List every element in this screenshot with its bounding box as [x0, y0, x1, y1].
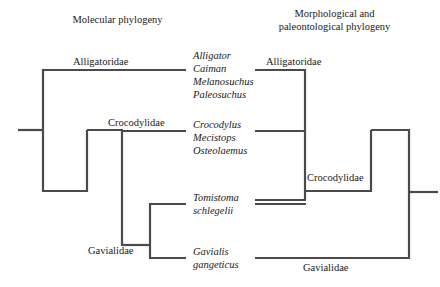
taxon-name: Gavialis [193, 245, 239, 258]
right-clade-label-crocodylidae: Crocodylidae [307, 172, 364, 183]
left-clade-label-gavialidae: Gavialidae [88, 245, 133, 256]
alligatoridae-taxa-list: Alligator Caiman Melanosuchus Paleosuchu… [193, 49, 254, 101]
taxon-name: Alligator [193, 49, 254, 62]
gavialis-taxa-list: Gavialis gangeticus [193, 245, 239, 271]
taxon-name: Paleosuchus [193, 88, 254, 101]
right-clade-label-alligatoridae: Alligatoridae [266, 56, 321, 67]
taxon-name: gangeticus [193, 258, 239, 271]
taxon-name: Tomistoma [193, 191, 239, 204]
right-panel-title-line1: Morphological and [262, 8, 407, 21]
taxon-name: Crocodylus [193, 118, 247, 131]
right-clade-label-gavialidae: Gavialidae [303, 262, 348, 273]
left-clade-label-alligatoridae: Alligatoridae [73, 56, 128, 67]
taxon-name: Mecistops [193, 131, 247, 144]
taxon-name: Melanosuchus [193, 75, 254, 88]
taxon-name: Caiman [193, 62, 254, 75]
left-panel-title: Molecular phylogeny [55, 14, 180, 27]
crocodylidae-taxa-list: Crocodylus Mecistops Osteolaemus [193, 118, 247, 157]
taxon-name: Osteolaemus [193, 144, 247, 157]
phylogeny-figure: Molecular phylogeny Alligatoridae Crocod… [0, 0, 440, 287]
tomistoma-taxa-list: Tomistoma schlegelii [193, 191, 239, 217]
right-panel-title-line2: paleontological phylogeny [262, 21, 407, 34]
left-clade-label-crocodylidae: Crocodylidae [108, 117, 165, 128]
taxon-name: schlegelii [193, 204, 239, 217]
